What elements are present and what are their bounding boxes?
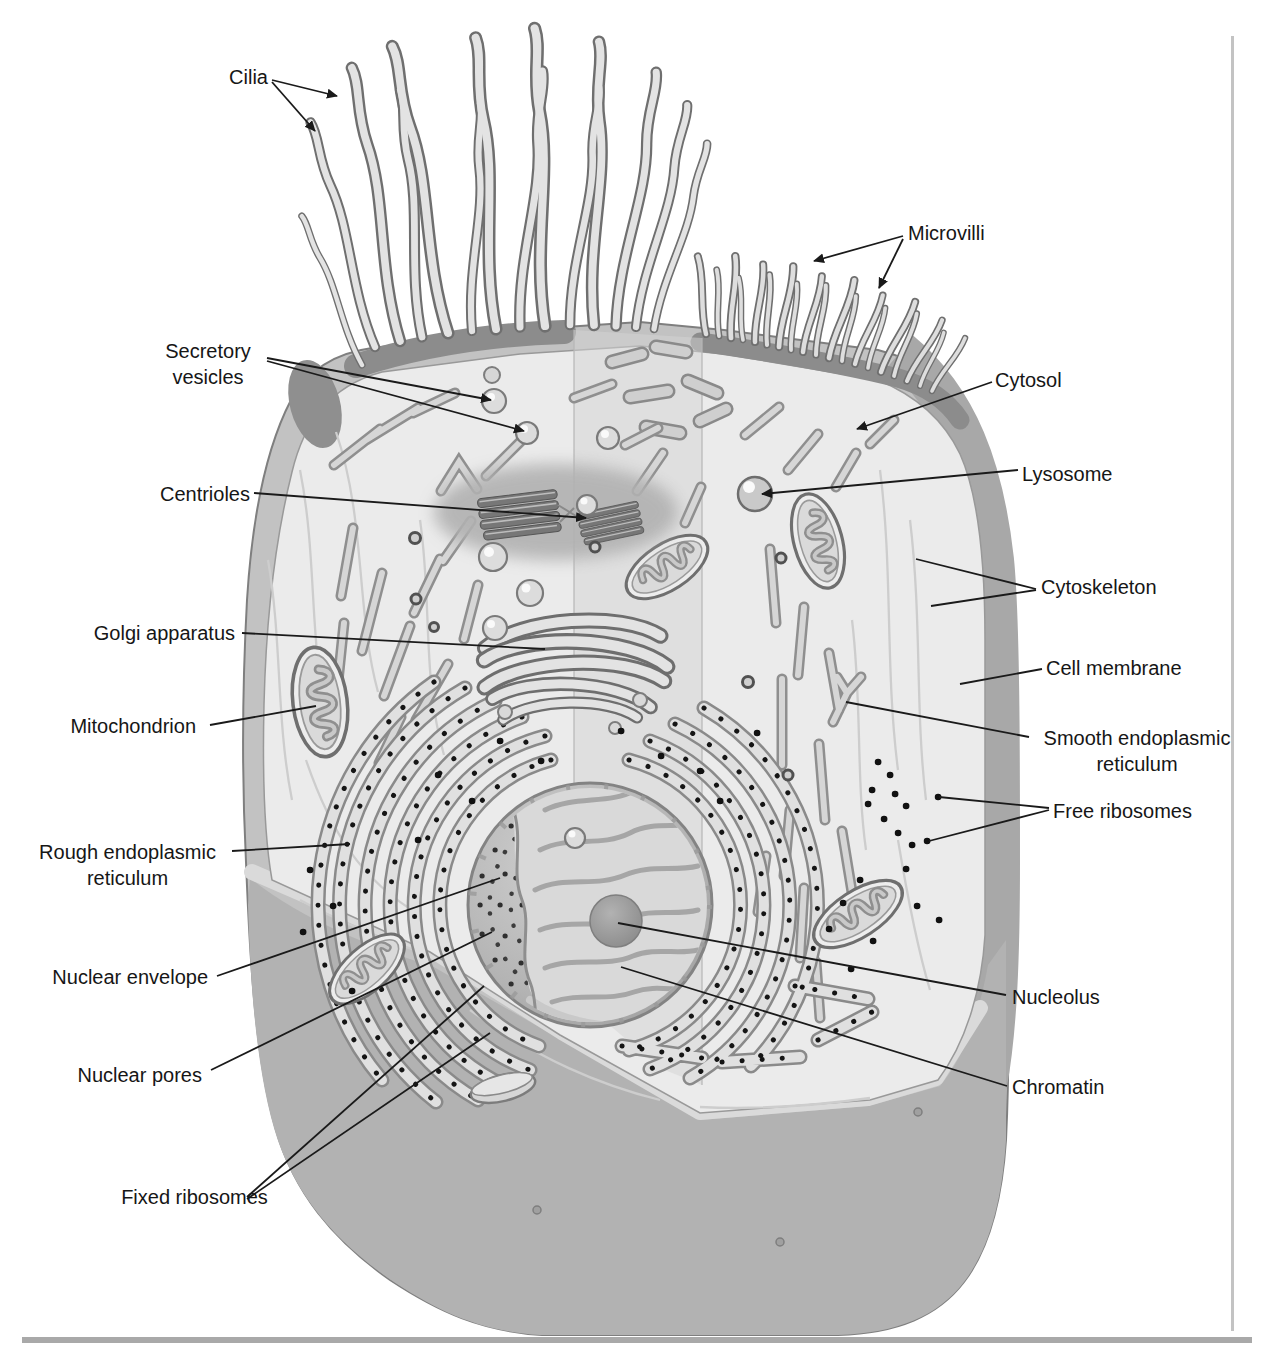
leader-lines bbox=[0, 0, 1275, 1371]
leader-rough-er bbox=[232, 844, 350, 851]
label-cytosol: Cytosol bbox=[995, 367, 1062, 393]
leader-golgi bbox=[242, 633, 545, 649]
leader-cytosol bbox=[857, 382, 992, 429]
label-cell-membrane: Cell membrane bbox=[1046, 655, 1182, 681]
label-smooth-endoplasmic-reticulum: Smooth endoplasmic reticulum bbox=[1032, 725, 1242, 777]
leader-cytoskeleton-2 bbox=[931, 590, 1036, 606]
leader-mitochondrion bbox=[210, 706, 316, 725]
label-microvilli: Microvilli bbox=[908, 220, 985, 246]
leader-free-ribosomes-2 bbox=[929, 810, 1049, 841]
label-mitochondrion: Mitochondrion bbox=[70, 713, 196, 739]
label-cilia: Cilia bbox=[229, 64, 268, 90]
label-golgi-apparatus: Golgi apparatus bbox=[94, 620, 235, 646]
leader-smooth-er bbox=[846, 702, 1029, 737]
label-cytoskeleton: Cytoskeleton bbox=[1041, 574, 1157, 600]
leader-lysosome bbox=[762, 470, 1018, 494]
leader-free-ribosomes-1 bbox=[939, 797, 1049, 808]
label-chromatin: Chromatin bbox=[1012, 1074, 1104, 1100]
label-nuclear-envelope: Nuclear envelope bbox=[52, 964, 208, 990]
label-free-ribosomes: Free ribosomes bbox=[1053, 798, 1192, 824]
page-rule-right bbox=[1231, 36, 1234, 1331]
label-nucleolus: Nucleolus bbox=[1012, 984, 1100, 1010]
label-lysosome: Lysosome bbox=[1022, 461, 1112, 487]
label-rough-endoplasmic-reticulum: Rough endoplasmic reticulum bbox=[25, 839, 230, 891]
leader-microvilli-2 bbox=[879, 239, 903, 288]
leader-secretory-2 bbox=[267, 361, 524, 431]
leader-nuclear-envelope bbox=[217, 878, 500, 976]
leader-fixed-ribosomes-1 bbox=[247, 986, 484, 1197]
figure-canvas: Cilia Microvilli Secretory vesicles Cyto… bbox=[0, 0, 1275, 1371]
page-rule-bottom bbox=[22, 1337, 1252, 1343]
label-secretory-vesicles: Secretory vesicles bbox=[150, 338, 266, 390]
leader-microvilli-1 bbox=[814, 236, 903, 261]
label-nuclear-pores: Nuclear pores bbox=[77, 1062, 202, 1088]
leader-fixed-ribosomes-2 bbox=[247, 1033, 490, 1199]
label-centrioles: Centrioles bbox=[160, 481, 250, 507]
leader-cytoskeleton-1 bbox=[916, 559, 1036, 589]
leader-centrioles bbox=[254, 493, 586, 518]
leader-secretory-1 bbox=[267, 358, 491, 400]
leader-nuclear-pores bbox=[211, 932, 492, 1070]
leader-cell-membrane bbox=[960, 669, 1042, 684]
label-fixed-ribosomes: Fixed ribosomes bbox=[112, 1184, 277, 1210]
